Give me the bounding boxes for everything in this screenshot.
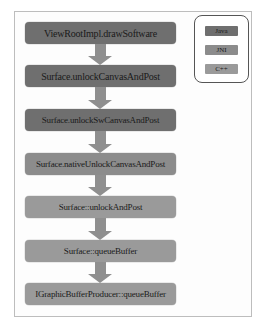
node-label: Surface.unlockCanvasAndPost: [41, 71, 160, 82]
arrow-down-icon: [88, 175, 113, 196]
legend-item-jni: JNI: [205, 45, 238, 55]
legend-item-cpp: C++: [205, 64, 238, 74]
legend-label: C++: [215, 65, 228, 73]
node-igraphicbufferproducer-queuebuffer: IGraphicBufferProducer::queueBuffer: [25, 283, 176, 305]
node-label: ViewRootImpl.drawSoftware: [44, 28, 157, 39]
arrow-down-icon: [88, 262, 113, 283]
node-label: Surface.nativeUnlockCanvasAndPost: [36, 159, 165, 169]
legend-item-java: Java: [205, 26, 238, 36]
node-surface-nativeunlockcanvasandpost: Surface.nativeUnlockCanvasAndPost: [25, 153, 176, 175]
node-surface-unlockcanvasandpost: Surface.unlockCanvasAndPost: [25, 65, 176, 87]
node-label: Surface::unlockAndPost: [59, 202, 143, 212]
node-surface-unlockandpost: Surface::unlockAndPost: [25, 196, 176, 218]
arrow-down-icon: [88, 131, 113, 153]
node-label: Surface.unlockSwCanvasAndPost: [42, 115, 159, 125]
node-label: IGraphicBufferProducer::queueBuffer: [35, 289, 166, 299]
arrow-down-icon: [88, 218, 113, 240]
node-viewrootimpl-drawsoftware: ViewRootImpl.drawSoftware: [25, 22, 176, 44]
legend-label: Java: [215, 27, 227, 35]
arrow-down-icon: [88, 87, 113, 109]
legend-label: JNI: [216, 46, 226, 54]
legend: Java JNI C++: [194, 15, 249, 83]
arrow-down-icon: [88, 44, 113, 65]
node-surface-queuebuffer: Surface::queueBuffer: [25, 240, 176, 262]
node-label: Surface::queueBuffer: [64, 246, 137, 256]
node-surface-unlockswcanvasandpost: Surface.unlockSwCanvasAndPost: [25, 109, 176, 131]
